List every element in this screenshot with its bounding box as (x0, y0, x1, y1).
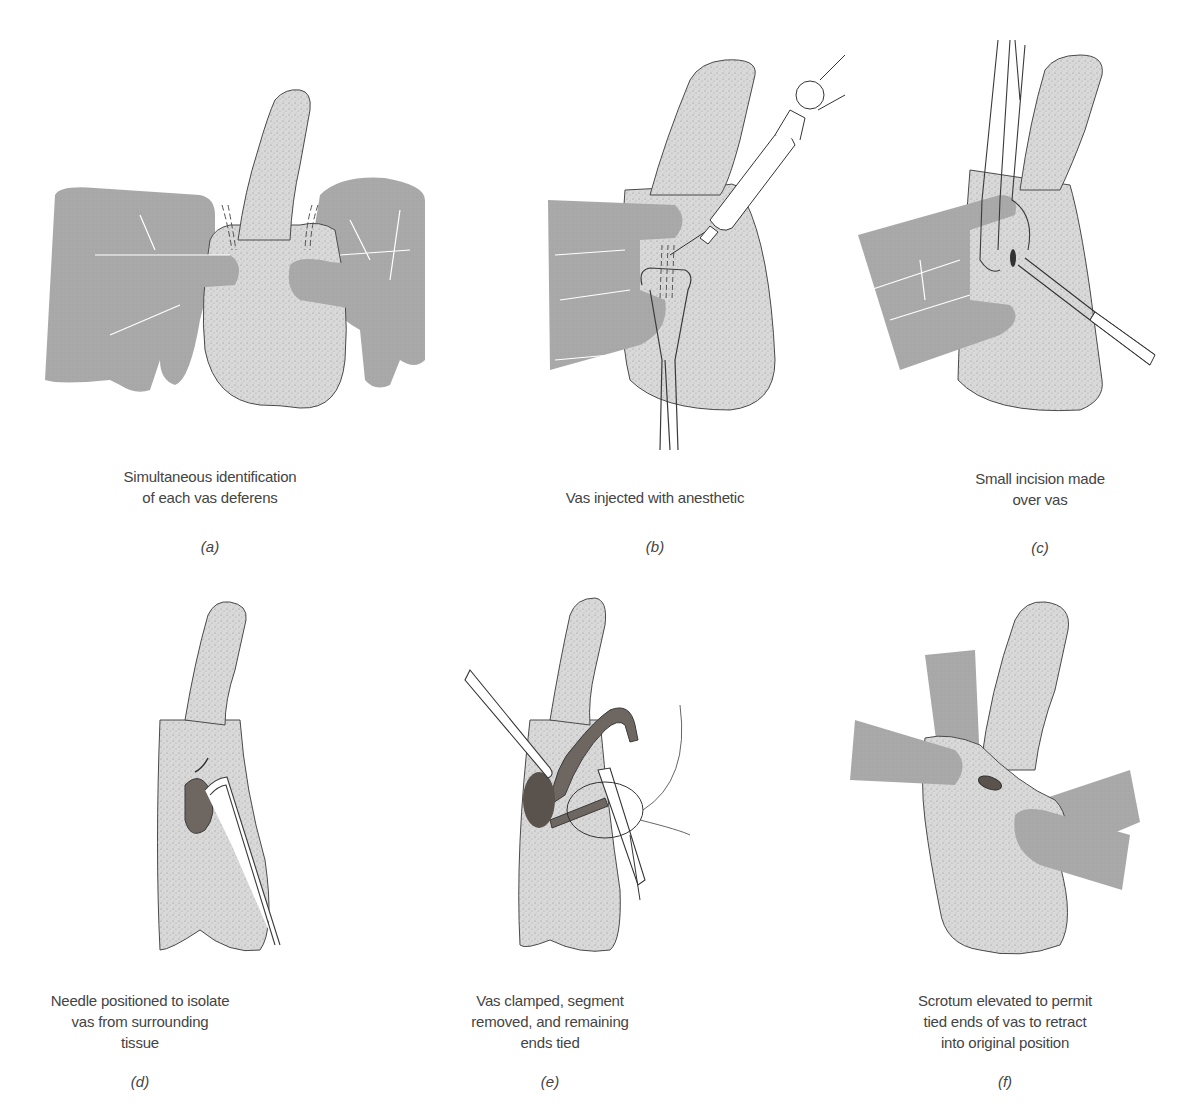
scrotum (203, 223, 346, 408)
panel-e-illustration (480, 590, 800, 970)
panel-c-illustration (850, 0, 1190, 450)
panel-a-illustration (0, 0, 400, 450)
suture-thread (640, 705, 690, 835)
incision (1010, 249, 1016, 267)
panel-a-drawing (0, 0, 420, 450)
caption-f: Scrotum elevated to permit tied ends of … (885, 990, 1125, 1053)
panel-c-drawing (850, 0, 1190, 450)
penis (185, 602, 246, 725)
penis (1020, 55, 1102, 190)
label-d: (d) (20, 1073, 260, 1090)
penis (980, 602, 1069, 770)
panel-d-drawing (100, 590, 360, 970)
scalpel-handle (1090, 312, 1155, 365)
panel-d-illustration (100, 590, 360, 970)
penis (238, 90, 310, 240)
caption-c: Small incision made over vas (935, 468, 1145, 510)
panel-b-illustration (500, 0, 820, 450)
label-f: (f) (885, 1073, 1125, 1090)
caption-a: Simultaneous identification of each vas … (90, 466, 330, 508)
caption-b: Vas injected with anesthetic (530, 487, 780, 508)
scrotum (158, 720, 270, 951)
caption-e: Vas clamped, segment removed, and remain… (440, 990, 660, 1053)
label-e: (e) (440, 1073, 660, 1090)
panel-b-drawing (500, 0, 820, 450)
panel-e-drawing (480, 590, 800, 970)
panel-f-drawing (840, 590, 1180, 970)
label-a: (a) (90, 538, 330, 555)
caption-d: Needle positioned to isolate vas from su… (20, 990, 260, 1053)
penis (550, 598, 606, 725)
penis (650, 60, 755, 195)
label-b: (b) (530, 538, 780, 555)
panel-f-illustration (840, 590, 1180, 970)
label-c: (c) (935, 539, 1145, 556)
